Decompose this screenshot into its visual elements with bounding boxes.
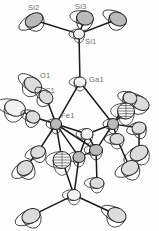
atom-label-si2: Si2 (28, 4, 39, 12)
ellipsoid-outline (74, 29, 85, 39)
bond-line (79, 38, 80, 79)
atom-label-o1: O1 (40, 72, 50, 80)
atom-label-c1: C1 (45, 87, 55, 95)
ellipsoid-outline (68, 190, 81, 201)
ortep-structure-figure: Si2Si3Si1O1Ga1C1Fe1 (0, 0, 159, 231)
ellipsoid-outline (110, 134, 124, 145)
ellipsoid-outline (90, 145, 103, 156)
ellipsoid-outline (81, 129, 93, 140)
ellipsoid-outline (73, 152, 85, 163)
ellipsoid-outline (74, 77, 86, 87)
ortep-svg-canvas (0, 0, 159, 231)
atom-label-si3: Si3 (75, 3, 86, 11)
ellipsoid-outline (51, 119, 62, 130)
atom-label-ga1: Ga1 (89, 76, 104, 84)
ellipsoid-outline (90, 178, 104, 189)
atom-label-si1: Si1 (85, 38, 96, 46)
ellipsoid-outline (108, 119, 119, 130)
atom-label-fe1: Fe1 (61, 112, 75, 120)
bond-line (96, 154, 97, 179)
